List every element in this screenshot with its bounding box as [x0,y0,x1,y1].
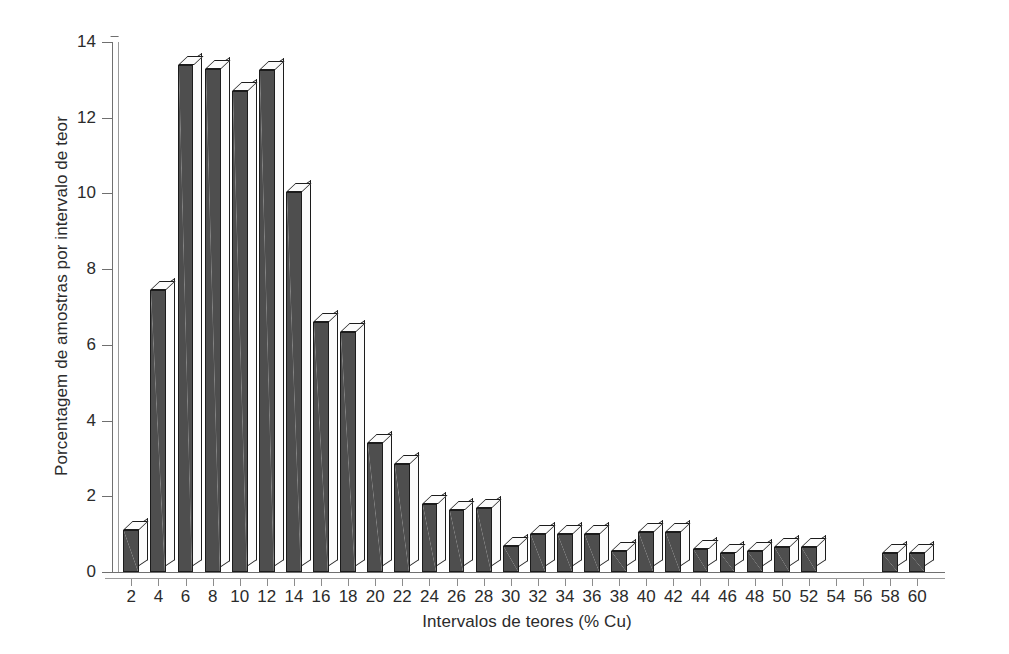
x-axis-tick [917,579,918,586]
bar-front-face [150,290,166,572]
bar-front-face [530,534,546,572]
bar-front-face [665,532,681,572]
bar-front-face [259,70,275,572]
x-axis-tick [131,579,132,586]
y-axis-tick: 10 [102,193,112,194]
y-axis-tick: 8 [102,269,112,270]
bar [693,549,709,572]
bar-front-face [123,530,139,572]
bar-front-face [909,553,925,572]
x-axis-tick [375,579,376,586]
bar [367,443,383,572]
bar-side-face [193,53,202,566]
bar [882,553,898,572]
bar-front-face [882,553,898,572]
bar [530,534,546,572]
bar [638,532,654,572]
x-axis-tick [429,579,430,586]
bar [665,532,681,572]
bar-front-face [747,551,763,572]
y-axis-tick: 4 [102,421,112,422]
bar-side-face [410,452,419,566]
bar-side-face [383,431,392,566]
bar-front-face [394,464,410,572]
bar [503,546,519,573]
bar [449,510,465,572]
plot-area: 02468101214 2468101214161820222426283032… [112,42,940,572]
bar-front-face [367,443,383,572]
y-axis-tick-label: 10 [77,183,96,203]
y-axis-tick: 12 [102,118,112,119]
bar [720,553,736,572]
bar-front-face [286,192,302,572]
bar [394,464,410,572]
x-axis-tick [538,579,539,586]
y-axis-tick: 6 [102,345,112,346]
x-axis-title: Intervalos de teores (% Cu) [112,612,942,632]
x-axis-tick [484,579,485,586]
bar [611,551,627,572]
x-axis-tick [213,579,214,586]
x-axis-tick [511,579,512,586]
y-axis-tick: 14 [102,42,112,43]
bar [205,69,221,573]
bar [557,534,573,572]
bar-side-face [248,79,257,566]
bar [909,553,925,572]
bar-front-face [801,547,817,572]
y-axis-tick-label: 14 [77,32,96,52]
bar [340,332,356,572]
bar-side-face [356,320,365,566]
bar [232,91,248,572]
x-axis-baseline [105,572,945,579]
y-axis-tick-label: 2 [87,486,96,506]
bar-front-face [557,534,573,572]
x-axis-tick [782,579,783,586]
bar-front-face [638,532,654,572]
x-axis-tick [755,579,756,586]
x-axis-tick [565,579,566,586]
x-axis-tick [457,579,458,586]
y-axis-tick-label: 4 [87,411,96,431]
bar-side-face [221,56,230,566]
bar-front-face [476,508,492,572]
bar-front-face [449,510,465,572]
bar-front-face [178,65,194,572]
bar [422,504,438,572]
x-axis-tick [402,579,403,586]
x-axis-tick [592,579,593,586]
bar [313,322,329,572]
bar [747,551,763,572]
bar [774,547,790,572]
bar-front-face [584,534,600,572]
x-axis-tick [673,579,674,586]
x-axis-tick [890,579,891,586]
y-axis-tick-label: 0 [87,562,96,582]
bar-front-face [503,546,519,573]
bar [801,547,817,572]
bar-side-face [275,58,284,566]
bar [286,192,302,572]
y-axis-tick-label: 8 [87,259,96,279]
x-axis-tick [646,579,647,586]
bar [584,534,600,572]
x-axis-tick [863,579,864,586]
bar [476,508,492,572]
bar-front-face [232,91,248,572]
bar [178,65,194,572]
bar-front-face [693,549,709,572]
bar-side-face [329,310,338,566]
x-axis-tick [728,579,729,586]
bar-front-face [611,551,627,572]
bar [150,290,166,572]
bar-chart-figure: Porcentagem de amostras por intervalo de… [0,0,1009,654]
x-axis-tick [240,579,241,586]
y-axis-tick: 2 [102,496,112,497]
x-axis-tick [700,579,701,586]
x-axis-tick [294,579,295,586]
x-axis-tick-label: 60 [897,587,937,607]
x-axis-tick [619,579,620,586]
bar [123,530,139,572]
y-axis-tick: 0 [102,572,112,573]
x-axis-tick [321,579,322,586]
